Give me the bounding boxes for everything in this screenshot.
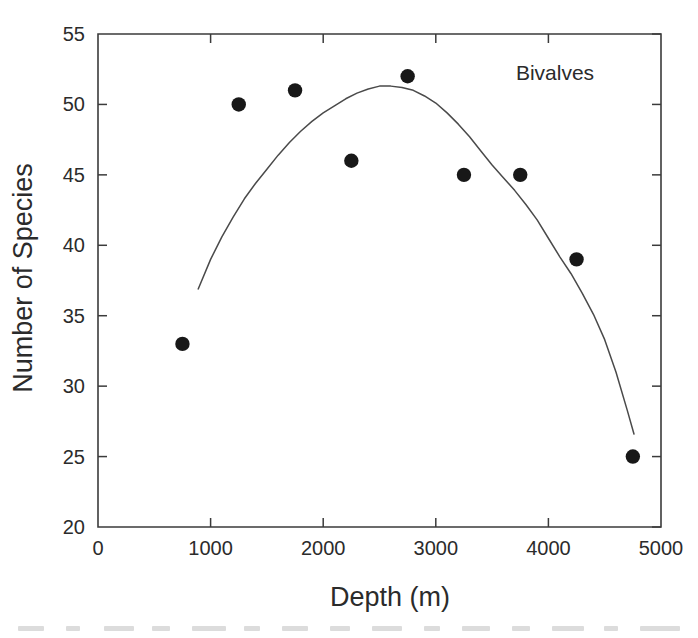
y-tick-label: 50 [63, 93, 85, 115]
y-tick-label: 25 [63, 446, 85, 468]
data-point [288, 83, 302, 97]
x-tick-label: 2000 [301, 537, 346, 559]
axis-frame [98, 34, 661, 527]
data-point [457, 168, 471, 182]
data-point [626, 449, 640, 463]
data-point [569, 252, 583, 266]
bivalves-depth-scatter-chart: 2025303540455055 010002000300040005000 B… [0, 0, 698, 638]
y-axis-tick-labels: 2025303540455055 [63, 23, 85, 538]
data-point [232, 97, 246, 111]
plot-frame [98, 34, 661, 527]
fitted-curve [198, 86, 634, 434]
y-tick-label: 55 [63, 23, 85, 45]
figure-panel: 2025303540455055 010002000300040005000 B… [0, 0, 698, 638]
series-annotation-label: Bivalves [516, 61, 594, 84]
scan-edge-artifact [0, 624, 698, 638]
data-point [400, 69, 414, 83]
y-axis-tick-marks [98, 34, 661, 527]
x-tick-label: 5000 [639, 537, 684, 559]
x-tick-label: 4000 [526, 537, 571, 559]
x-axis-tick-marks [211, 34, 549, 527]
y-tick-label: 30 [63, 375, 85, 397]
y-tick-label: 20 [63, 516, 85, 538]
data-point [175, 337, 189, 351]
x-tick-label: 1000 [188, 537, 233, 559]
x-axis-title: Depth (m) [330, 582, 450, 612]
y-tick-label: 35 [63, 305, 85, 327]
x-tick-label: 3000 [414, 537, 459, 559]
y-tick-label: 45 [63, 164, 85, 186]
data-point-markers [175, 69, 640, 464]
y-axis-title: Number of Species [8, 163, 38, 393]
x-tick-label: 0 [92, 537, 103, 559]
data-point [344, 154, 358, 168]
y-tick-label: 40 [63, 234, 85, 256]
data-point [513, 168, 527, 182]
x-axis-tick-labels: 010002000300040005000 [92, 537, 683, 559]
